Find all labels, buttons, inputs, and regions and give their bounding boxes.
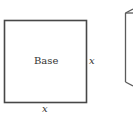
partial-box bbox=[126, 9, 134, 86]
right-side-length-label: x bbox=[89, 56, 95, 66]
diagram-canvas bbox=[0, 0, 133, 120]
partial-box-bottom-diagonal bbox=[126, 82, 134, 86]
bottom-side-length-label: x bbox=[42, 104, 48, 114]
base-label: Base bbox=[34, 56, 58, 66]
